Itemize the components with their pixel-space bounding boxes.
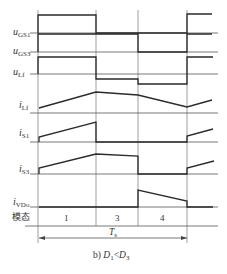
signal-label-ulf: uLf: [13, 67, 25, 79]
mode-row-label: 模态: [12, 213, 30, 222]
signal-label-ugs3: uGS3: [13, 46, 30, 58]
mode-1: 1: [64, 214, 69, 223]
period-label: Ts: [109, 228, 117, 239]
timing-diagram: uGS1uGS3uLfiLfiS1iS3iVDo 模态 1 3 4 Ts b) …: [0, 0, 227, 274]
arrow-right-icon: [181, 236, 187, 240]
mode-4: 4: [160, 214, 165, 223]
mode-3: 3: [115, 214, 120, 223]
figure-caption: b) D1<D3: [93, 251, 129, 262]
waveform-ilf: [39, 92, 212, 108]
signal-label-is1: iS1: [19, 128, 29, 140]
arrow-left-icon: [39, 236, 45, 240]
signal-label-is3: iS3: [19, 164, 29, 176]
waveform-ulf: [38, 57, 213, 84]
waveform-ugs1: [38, 14, 212, 33]
signal-label-ilf: iLf: [19, 100, 28, 112]
waveform-is3: [39, 154, 214, 174]
signal-label-ugs1: uGS1: [13, 27, 30, 39]
signal-label-ivdo: iVDo: [13, 197, 29, 209]
waveform-ugs3: [38, 34, 212, 52]
